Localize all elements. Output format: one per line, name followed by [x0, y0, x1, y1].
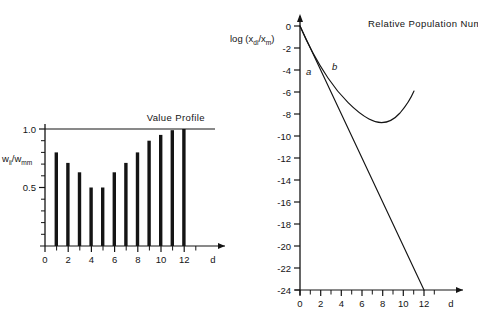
- series-b-curve: [300, 26, 414, 122]
- ry-label-lead: log (x: [230, 33, 253, 44]
- relative-population-chart: Relative Population Numbers 0 -2: [228, 0, 478, 324]
- relative-population-title: Relative Population Numbers: [368, 18, 478, 29]
- ry-label-m16: -16: [277, 197, 291, 208]
- rx-label-6: 6: [359, 298, 364, 309]
- ry-label-m12: -12: [277, 153, 291, 164]
- relative-population-svg: Relative Population Numbers 0 -2: [228, 0, 478, 324]
- y-tick-label-1: 1.0: [23, 124, 36, 135]
- bar-d9: [147, 141, 150, 246]
- ry-label-m8: -8: [283, 109, 291, 120]
- y-label-slash: /w: [12, 153, 22, 164]
- ry-label-m18: -18: [277, 219, 291, 230]
- rx-label-10: 10: [398, 298, 409, 309]
- ry-label-m24: -24: [277, 285, 291, 296]
- y-label-sub-mm: mm: [21, 159, 32, 166]
- rx-label-8: 8: [380, 298, 385, 309]
- x-tick-label-0: 0: [42, 254, 47, 265]
- ry-label-m20: -20: [277, 241, 291, 252]
- value-profile-x-axis-arrow: [218, 243, 225, 249]
- ry-label-m2: -2: [283, 43, 291, 54]
- ry-label-m6: -6: [283, 87, 291, 98]
- value-profile-title: Value Profile: [147, 112, 205, 123]
- value-profile-y-axis-label: wii/wmm: [1, 153, 33, 166]
- value-profile-svg: Value Profile 1.0 0.5 wii/wm: [0, 96, 240, 276]
- ry-label-tail: ): [271, 33, 274, 44]
- bar-d1: [55, 152, 58, 246]
- x-tick-label-10: 10: [156, 254, 167, 265]
- rx-label-4: 4: [339, 298, 344, 309]
- rx-label-12: 12: [419, 298, 430, 309]
- x-tick-label-8: 8: [135, 254, 140, 265]
- bar-d2: [66, 163, 69, 246]
- bar-d12: [182, 129, 185, 246]
- y-label-w1: w: [1, 153, 9, 164]
- bar-d10: [159, 135, 162, 246]
- bar-d4: [89, 188, 92, 247]
- bar-d8: [136, 152, 139, 246]
- x-tick-label-2: 2: [66, 254, 71, 265]
- figure-root: Value Profile 1.0 0.5 wii/wm: [0, 0, 478, 324]
- ry-label-m22: -22: [277, 263, 291, 274]
- bar-d3: [78, 172, 81, 246]
- bar-d7: [124, 163, 127, 246]
- ry-label-m10: -10: [277, 131, 291, 142]
- value-profile-x-axis-label: d: [210, 254, 215, 265]
- y-tick-label-0p5: 0.5: [23, 182, 36, 193]
- bar-d11: [171, 130, 174, 246]
- bar-d6: [113, 172, 116, 246]
- ry-label-m14: -14: [277, 175, 291, 186]
- relative-population-x-axis-label: d: [448, 298, 453, 309]
- relative-population-y-axis-label: log (xdi/xm): [230, 33, 274, 46]
- rx-label-2: 2: [318, 298, 323, 309]
- rx-label-0: 0: [297, 298, 302, 309]
- relative-population-x-axis-arrow: [456, 287, 463, 293]
- bar-d5: [101, 188, 104, 247]
- ry-label-0: 0: [286, 21, 291, 32]
- relative-population-y-axis-arrow: [297, 14, 303, 22]
- x-tick-label-6: 6: [112, 254, 117, 265]
- x-tick-label-12: 12: [179, 254, 190, 265]
- ry-label-m4: -4: [283, 65, 291, 76]
- value-profile-chart: Value Profile 1.0 0.5 wii/wm: [0, 96, 240, 276]
- series-a-label: a: [306, 66, 311, 77]
- series-b-label: b: [332, 61, 337, 72]
- x-tick-label-4: 4: [89, 254, 94, 265]
- series-a-line: [300, 26, 424, 290]
